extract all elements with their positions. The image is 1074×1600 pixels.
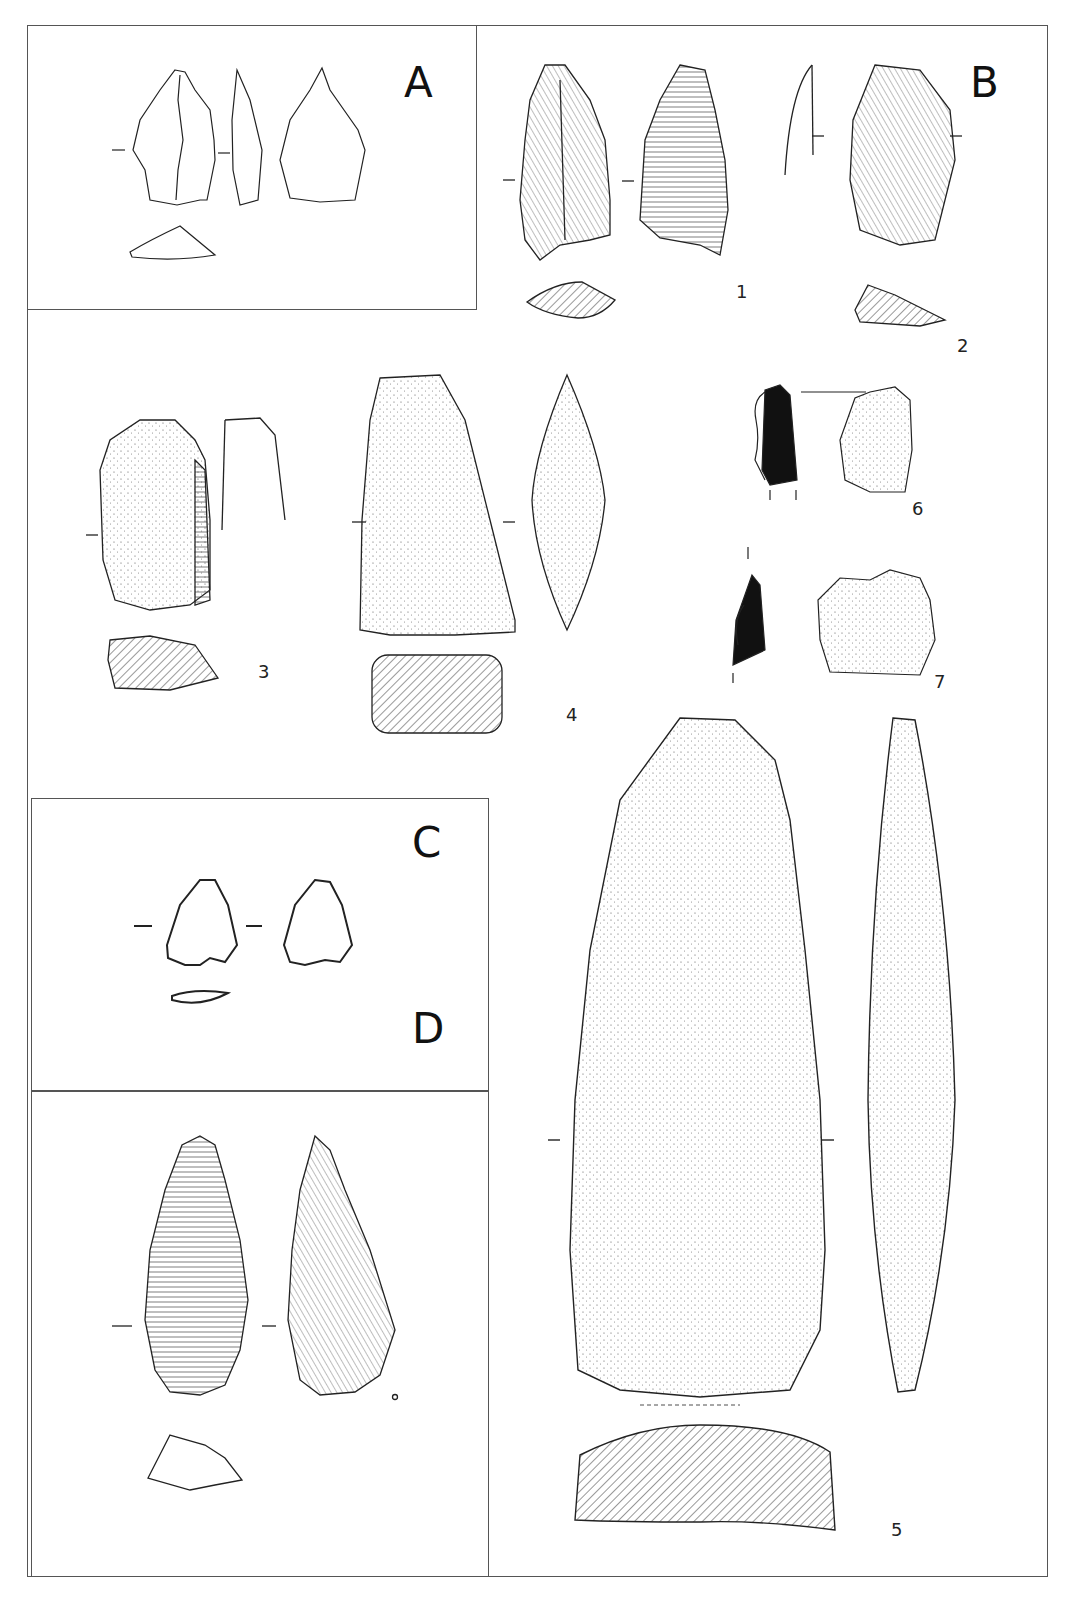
artifact-2 <box>785 65 962 326</box>
artifact-7 <box>733 547 935 683</box>
artifact-3 <box>86 418 285 690</box>
artifact-5 <box>548 718 955 1530</box>
artifact-6 <box>755 385 912 500</box>
artifact-c-arrowhead <box>134 880 352 1003</box>
artifact-drawings <box>0 0 1074 1600</box>
artifact-1 <box>503 65 728 318</box>
artifact-number-3: 3 <box>258 663 269 681</box>
panel-c-label: C <box>412 822 441 864</box>
artifact-4 <box>352 375 605 733</box>
panel-d-label: D <box>412 1008 444 1050</box>
artifact-number-1: 1 <box>736 283 747 301</box>
artifact-number-5: 5 <box>891 1521 902 1539</box>
artifact-number-4: 4 <box>566 706 577 724</box>
artifact-number-7: 7 <box>934 673 945 691</box>
panel-b-label: B <box>970 62 999 104</box>
artifact-a-point <box>112 68 365 259</box>
artifact-number-6: 6 <box>912 500 923 518</box>
artifact-number-2: 2 <box>957 337 968 355</box>
artifact-d-point <box>112 1136 398 1490</box>
panel-a-label: A <box>404 62 433 104</box>
